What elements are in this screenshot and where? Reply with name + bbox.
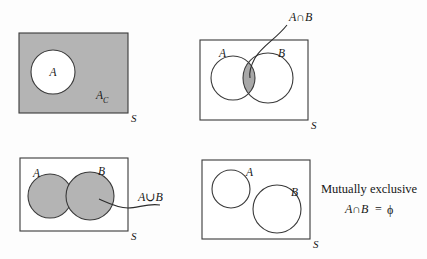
set-a-circle — [28, 174, 72, 218]
panel-intersection: A B A∩B S — [200, 10, 317, 131]
venn-diagram-figure: A A C S A B A∩B S A B — [0, 0, 427, 259]
union-callout-label: A∪B — [137, 190, 163, 204]
mutually-exclusive-expression-equals: = — [375, 202, 382, 216]
sample-space-label: S — [131, 112, 137, 124]
set-a-label: A — [245, 166, 254, 178]
panel-complement: A A C S — [19, 33, 137, 124]
mutually-exclusive-note: Mutually exclusive — [321, 182, 418, 196]
mutually-exclusive-expression-rhs: ϕ — [387, 203, 393, 217]
panel-mutually-exclusive: A B S Mutually exclusive A∩B = ϕ — [202, 160, 418, 250]
sample-space-box — [202, 160, 310, 239]
set-a-label: A — [32, 167, 41, 179]
complement-subscript-label: C — [103, 96, 109, 105]
sample-space-label: S — [311, 119, 317, 131]
set-a-label: A — [48, 66, 57, 78]
set-b-label: B — [291, 186, 298, 198]
sample-space-label: S — [131, 230, 137, 242]
intersection-callout-label: A∩B — [288, 10, 313, 24]
set-b-label: B — [98, 165, 105, 177]
mutually-exclusive-expression-lhs: A∩B — [344, 202, 369, 216]
panel-union: A B A∪B S — [20, 158, 163, 242]
set-a-label: A — [218, 47, 227, 59]
set-b-circle — [66, 172, 114, 220]
sample-space-label: S — [313, 238, 319, 250]
figure-canvas: A A C S A B A∩B S A B — [0, 0, 427, 259]
set-b-label: B — [278, 47, 285, 59]
